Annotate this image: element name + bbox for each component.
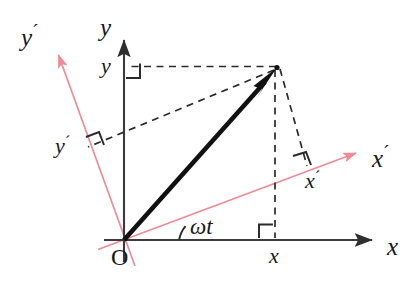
angle-omega-t-label: ωt (190, 215, 213, 238)
x-prime-axis-prime-mark: ´ (383, 142, 390, 164)
right-angle-mark-x-prime-axis (293, 152, 311, 165)
x-prime-component-prime-mark: ´ (315, 166, 321, 186)
x-component-label: x (269, 245, 279, 267)
vector-rotating-frame-diagram: y x y x y´ x´ y´ x´ ωt O (0, 0, 419, 290)
y-axis-label: y (100, 15, 111, 40)
y-prime-axis-label: y´ (21, 22, 39, 50)
origin-label: O (111, 245, 128, 269)
x-prime-component-label: x´ (305, 168, 321, 192)
resultant-vector-tip-point (274, 65, 279, 70)
angle-arc-omega-t (179, 226, 186, 240)
y-prime-component-label: y´ (55, 133, 71, 157)
y-prime-axis-prime-mark: ´ (32, 21, 39, 43)
x-prime-projection-dashed-line (280, 69, 307, 166)
y-prime-component-label-base: y (55, 133, 65, 158)
x-prime-axis-label-base: x (372, 145, 383, 172)
y-prime-axis-label-base: y (21, 24, 32, 51)
y-prime-projection-dashed-line (88, 70, 274, 147)
x-axis-label: x (387, 234, 398, 259)
x-prime-axis-label: x´ (372, 143, 390, 171)
y-component-label: y (101, 55, 111, 77)
y-prime-component-prime-mark: ´ (65, 131, 71, 151)
x-prime-component-label-base: x (305, 168, 315, 193)
right-angle-mark-x-axis (259, 225, 273, 239)
fixed-axes-group (104, 40, 372, 262)
